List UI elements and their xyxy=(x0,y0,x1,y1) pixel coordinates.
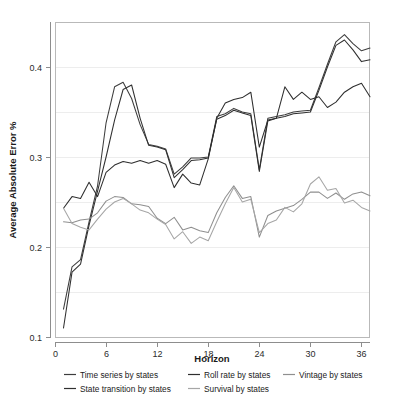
legend-label[interactable]: Vintage by states xyxy=(299,370,363,380)
x-tick-label: 36 xyxy=(356,349,366,359)
y-tick-label: 0.1 xyxy=(29,333,42,343)
x-tick-label: 24 xyxy=(254,349,264,359)
line-chart: 061218243036 0.10.20.30.4 Horizon Averag… xyxy=(0,0,402,412)
legend-label[interactable]: Time series by states xyxy=(80,370,158,380)
legend-label[interactable]: Roll rate by states xyxy=(204,370,270,380)
y-axis-title: Average Absolute Error % xyxy=(7,121,18,239)
x-tick-label: 0 xyxy=(53,349,58,359)
x-tick-label: 6 xyxy=(104,349,109,359)
x-tick-label: 12 xyxy=(152,349,162,359)
legend-label[interactable]: State transition by states xyxy=(80,384,171,394)
y-tick-label: 0.3 xyxy=(29,153,42,163)
chart-background xyxy=(0,0,402,412)
x-axis-title: Horizon xyxy=(194,353,230,364)
x-tick-label: 30 xyxy=(305,349,315,359)
legend-label[interactable]: Survival by states xyxy=(204,384,269,394)
y-tick-label: 0.2 xyxy=(29,243,42,253)
chart-figure: 061218243036 0.10.20.30.4 Horizon Averag… xyxy=(0,0,402,412)
y-tick-label: 0.4 xyxy=(29,63,42,73)
